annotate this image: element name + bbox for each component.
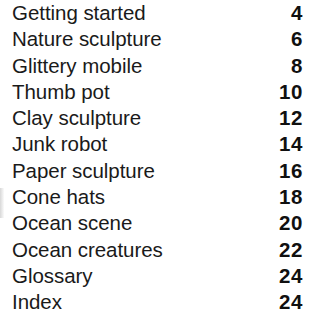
toc-entry-title: Junk robot	[12, 131, 107, 157]
toc-entry-page-number: 10	[279, 79, 303, 105]
toc-entry-title: Cone hats	[12, 184, 105, 210]
toc-entry[interactable]: Nature sculpture 6	[0, 26, 310, 52]
toc-entry-page-number: 8	[291, 53, 303, 79]
toc-entry[interactable]: Junk robot 14	[0, 131, 310, 157]
toc-entry[interactable]: Glittery mobile 8	[0, 53, 310, 79]
toc-entry-title: Nature sculpture	[12, 26, 162, 52]
table-of-contents-page: Getting started 4 Nature sculpture 6 Gli…	[0, 0, 310, 328]
toc-entry-title: Ocean creatures	[12, 237, 163, 263]
toc-entry-page-number: 16	[279, 158, 303, 184]
toc-entry[interactable]: Paper sculpture 16	[0, 158, 310, 184]
table-of-contents-list: Getting started 4 Nature sculpture 6 Gli…	[0, 0, 310, 316]
toc-entry-title: Getting started	[12, 0, 146, 26]
toc-entry[interactable]: Index 24	[0, 289, 310, 315]
toc-entry-page-number: 18	[279, 184, 303, 210]
toc-entry[interactable]: Ocean creatures 22	[0, 237, 310, 263]
toc-entry-title: Thumb pot	[12, 79, 110, 105]
toc-entry-page-number: 24	[279, 289, 303, 315]
toc-entry-title: Paper sculpture	[12, 158, 155, 184]
toc-entry-title: Clay sculpture	[12, 105, 141, 131]
toc-entry-title: Ocean scene	[12, 210, 132, 236]
toc-entry-page-number: 6	[291, 26, 303, 52]
toc-entry[interactable]: Glossary 24	[0, 263, 310, 289]
toc-entry-page-number: 4	[291, 0, 303, 26]
toc-entry-page-number: 22	[279, 237, 303, 263]
toc-entry-title: Glittery mobile	[12, 53, 142, 79]
toc-entry[interactable]: Ocean scene 20	[0, 210, 310, 236]
toc-entry[interactable]: Thumb pot 10	[0, 79, 310, 105]
toc-entry-page-number: 24	[279, 263, 303, 289]
toc-entry[interactable]: Cone hats 18	[0, 184, 310, 210]
toc-entry-page-number: 14	[279, 131, 303, 157]
toc-entry-title: Glossary	[12, 263, 92, 289]
toc-entry-page-number: 12	[279, 105, 303, 131]
toc-entry-title: Index	[12, 289, 62, 315]
toc-entry[interactable]: Clay sculpture 12	[0, 105, 310, 131]
toc-entry[interactable]: Getting started 4	[0, 0, 310, 26]
toc-entry-page-number: 20	[279, 210, 303, 236]
